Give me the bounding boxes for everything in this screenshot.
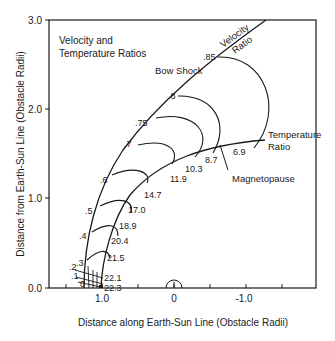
stagnation-point (99, 285, 103, 288)
velocity-label: .7 (124, 139, 132, 149)
x-tick-label: 1.0 (95, 293, 109, 304)
x-tick-label: -1.0 (235, 293, 253, 304)
temperature-label: 14.7 (144, 190, 162, 200)
velocity-label: .85 (203, 52, 216, 62)
velocity-label: .1 (71, 271, 79, 281)
magnetopause-label: Magnetopause (232, 173, 295, 184)
bow-shock-label: Bow Shock (155, 65, 203, 76)
y-axis-title: Distance from Earth-Sun Line (Obstacle R… (15, 51, 26, 257)
temperature-label: 6.9 (233, 147, 246, 157)
temperature-label: 18.9 (119, 221, 137, 231)
magnetopause-pointer (220, 145, 228, 170)
temperature-ratio-label-2: Ratio (268, 141, 290, 152)
velocity-label: .6 (100, 175, 108, 185)
temperature-label: 10.3 (185, 164, 203, 174)
x-tick-label: 0 (171, 293, 177, 304)
temperature-label: 11.9 (170, 174, 187, 184)
velocity-label: .75 (135, 118, 148, 128)
velocity-label: 0 (80, 279, 85, 289)
title-line-2: Temperature Ratios (59, 48, 146, 59)
temperature-label: 22.3 (104, 283, 122, 293)
y-tick-label: 0.0 (28, 283, 42, 294)
magnetopause-curve (101, 140, 265, 288)
velocity-label: .3 (76, 258, 84, 268)
temperature-label: 20.4 (111, 236, 129, 246)
velocity-label: .5 (85, 206, 93, 216)
temperature-label: 22.1 (104, 273, 122, 283)
velocity-label: .4 (79, 231, 87, 241)
temperature-label: 21.5 (107, 253, 125, 263)
y-tick-label: 2.0 (28, 104, 42, 115)
temperature-ratio-label-1: Temperature (268, 129, 321, 140)
plot-frame (49, 20, 316, 288)
magnetosheath-diagram: 3.0 2.0 1.0 0.0 1.0 0 -1.0 Distance alon… (0, 0, 335, 341)
temperature-label: 17.0 (128, 205, 146, 215)
x-axis-title: Distance along Earth-Sun Line (Obstacle … (78, 317, 288, 328)
title-line-1: Velocity and (59, 35, 113, 46)
velocity-label: .8 (168, 91, 176, 101)
y-tick-label: 3.0 (28, 15, 42, 26)
y-tick-label: 1.0 (28, 193, 42, 204)
temperature-label: 8.7 (205, 155, 218, 165)
